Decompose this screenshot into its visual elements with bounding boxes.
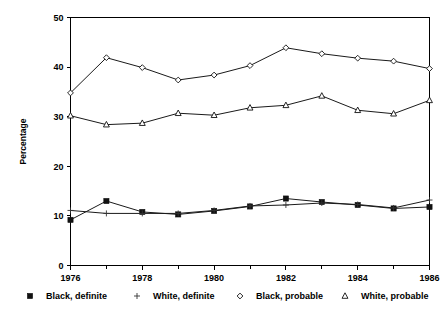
legend-label: Black, definite xyxy=(46,291,107,301)
x-tick-label: 1980 xyxy=(204,273,224,283)
line-chart: 01020304050197619781980198219841986 Perc… xyxy=(0,0,447,324)
y-axis-title: Percentage xyxy=(18,118,28,164)
y-tick-label: 10 xyxy=(53,211,63,221)
legend-label: White, definite xyxy=(153,291,215,301)
data-point xyxy=(283,196,288,201)
data-point xyxy=(104,198,109,203)
x-tick-label: 1986 xyxy=(419,273,439,283)
y-tick-label: 20 xyxy=(53,162,63,172)
x-tick-label: 1982 xyxy=(276,273,296,283)
y-tick-label: 30 xyxy=(53,112,63,122)
filled-square-icon xyxy=(27,293,32,298)
data-point xyxy=(68,217,73,222)
y-tick-label: 50 xyxy=(53,13,63,23)
y-axis-title-text: Percentage xyxy=(18,118,28,164)
data-point xyxy=(427,204,432,209)
x-tick-label: 1984 xyxy=(348,273,368,283)
chart-container: 01020304050197619781980198219841986 Perc… xyxy=(0,0,447,324)
x-tick-label: 1976 xyxy=(60,273,80,283)
legend-label: Black, probable xyxy=(256,291,323,301)
x-tick-label: 1978 xyxy=(132,273,152,283)
y-tick-label: 40 xyxy=(53,62,63,72)
legend-label: White, probable xyxy=(361,291,429,301)
y-tick-label: 0 xyxy=(58,261,63,271)
